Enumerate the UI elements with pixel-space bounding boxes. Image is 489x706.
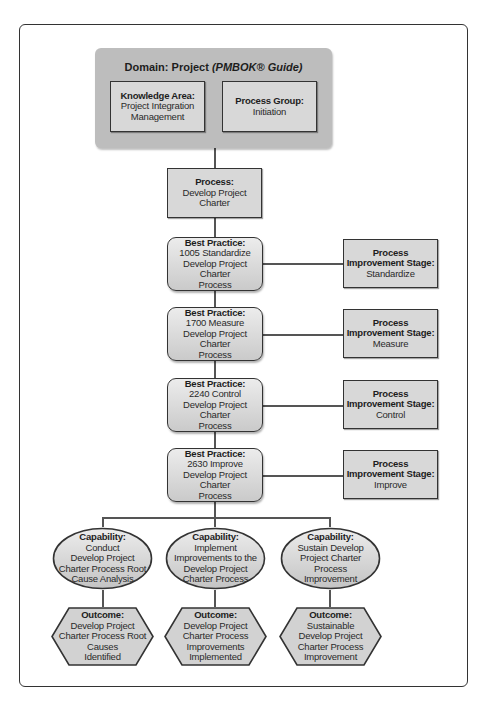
connector-bp2-stage2 <box>263 334 343 336</box>
connector-process-bp1 <box>214 218 216 237</box>
connector-bp3-stage3 <box>263 405 343 407</box>
best-practice-box-2240: Best Practice: 2240 Control Develop Proj… <box>167 378 263 432</box>
capability-ellipse-2: Capability: Implement Improvements to th… <box>165 527 266 590</box>
process-group-box: Process Group: Initiation <box>222 81 317 132</box>
outcome-hexagon-1: Outcome: Develop Project Charter Process… <box>51 607 154 666</box>
connector-bus-cap3 <box>329 517 331 527</box>
best-practice-box-1005: Best Practice: 1005 Standardize Develop … <box>167 237 263 291</box>
stage-box-improve: Process Improvement Stage: Improve <box>343 450 438 499</box>
connector-bus-cap1 <box>102 517 104 527</box>
connector-capabilities-bus <box>102 517 330 519</box>
connector-cap3-out3 <box>329 590 331 607</box>
connector-bp4-stage4 <box>263 475 343 477</box>
best-practice-box-2630: Best Practice: 2630 Improve Develop Proj… <box>167 448 263 502</box>
domain-title: Domain: Project (PMBOK® Guide) <box>95 61 332 73</box>
capability-ellipse-3: Capability: Sustain Develop Project Char… <box>280 527 381 590</box>
connector-bp2-bp3 <box>214 361 216 378</box>
connector-cap1-out1 <box>102 590 104 607</box>
stage-box-control: Process Improvement Stage: Control <box>343 380 438 429</box>
connector-bp1-stage1 <box>263 263 343 265</box>
outcome-hexagon-2: Outcome: Develop Project Charter Process… <box>164 607 267 666</box>
process-box: Process: Develop Project Charter <box>167 168 262 218</box>
connector-bp3-bp4 <box>214 432 216 448</box>
knowledge-area-box: Knowledge Area: Project Integration Mana… <box>110 81 205 132</box>
outcome-hexagon-3: Outcome: Sustainable Develop Project Cha… <box>279 607 382 666</box>
domain-box: Domain: Project (PMBOK® Guide) Knowledge… <box>95 48 332 148</box>
best-practice-box-1700: Best Practice: 1700 Measure Develop Proj… <box>167 307 263 361</box>
connector-bp1-bp2 <box>214 291 216 307</box>
capability-ellipse-1: Capability: Conduct Develop Project Char… <box>52 527 153 590</box>
connector-cap2-out2 <box>214 590 216 607</box>
stage-box-measure: Process Improvement Stage: Measure <box>343 309 438 358</box>
connector-domain-process <box>214 148 216 168</box>
connector-bp4-down <box>214 502 216 527</box>
stage-box-standardize: Process Improvement Stage: Standardize <box>343 239 438 288</box>
